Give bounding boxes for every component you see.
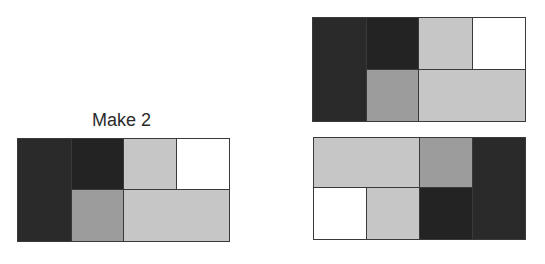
copy-bottom-rectangle: [313, 137, 525, 239]
piece-light: [123, 189, 230, 242]
piece-light: [418, 69, 526, 122]
piece-light: [366, 187, 420, 240]
piece-medium: [71, 189, 124, 242]
piece-white: [313, 187, 367, 240]
piece-dark: [366, 17, 419, 70]
piece-white: [176, 138, 230, 190]
piece-light: [313, 137, 420, 188]
piece-white: [472, 17, 526, 70]
copy-top-rectangle: [312, 17, 525, 121]
piece-light: [418, 17, 473, 70]
original-rectangle: [17, 138, 229, 241]
piece-black: [17, 138, 72, 242]
piece-dark: [419, 187, 473, 240]
piece-dark: [71, 138, 124, 190]
piece-medium: [419, 137, 473, 188]
piece-black: [312, 17, 367, 122]
piece-light: [123, 138, 177, 190]
make-2-label: Make 2: [92, 110, 151, 131]
piece-black: [472, 137, 526, 240]
piece-medium: [366, 69, 419, 122]
